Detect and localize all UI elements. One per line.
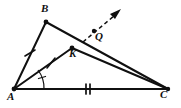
- angle-arc-at-A: [38, 70, 44, 89]
- geometry-canvas: [0, 0, 181, 108]
- point-B-dot: [44, 20, 49, 25]
- segment-KC: [72, 48, 168, 89]
- vertex-label-B: B: [41, 3, 48, 14]
- vertex-label-C: C: [160, 89, 167, 100]
- vertex-label-A: A: [7, 91, 14, 102]
- vertex-label-K: K: [69, 48, 76, 59]
- vertex-label-Q: Q: [95, 31, 103, 42]
- side-AB: [14, 22, 46, 89]
- geometry-figure: B Q K A C: [0, 0, 181, 108]
- tick-mark-segment-AK: [47, 58, 55, 68]
- side-BC: [46, 22, 168, 89]
